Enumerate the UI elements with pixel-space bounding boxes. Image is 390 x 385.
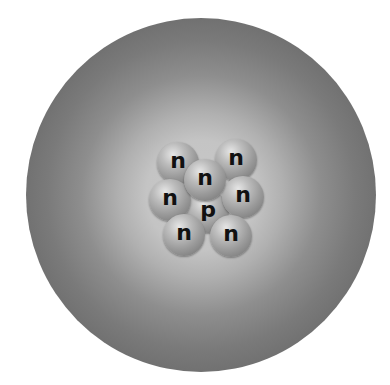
neutron-label: n — [223, 223, 239, 245]
neutron-label: n — [176, 222, 192, 244]
neutron: n — [184, 159, 226, 201]
neutron-label: n — [162, 187, 178, 209]
neutron-label: n — [170, 150, 186, 172]
nucleus: n n n n p n n n — [0, 0, 390, 385]
neutron-label: n — [197, 167, 213, 189]
neutron: n — [222, 176, 264, 218]
proton-label: p — [200, 199, 216, 221]
neutron-label: n — [235, 184, 251, 206]
neutron: n — [210, 215, 252, 257]
neutron-label: n — [228, 147, 244, 169]
neutron: n — [163, 214, 205, 256]
